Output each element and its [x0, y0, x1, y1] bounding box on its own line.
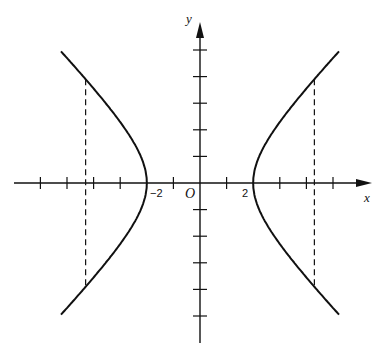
hyperbola-diagram: y x O −2 2	[0, 0, 386, 357]
left-vertex-label: −2	[150, 188, 163, 199]
y-axis-arrow	[196, 22, 204, 38]
y-axis-label: y	[186, 12, 192, 25]
origin-label: O	[185, 187, 195, 201]
right-vertex-label: 2	[242, 188, 248, 199]
x-axis-label: x	[364, 191, 370, 204]
x-axis-arrow	[356, 179, 372, 187]
plot-canvas	[0, 0, 386, 357]
